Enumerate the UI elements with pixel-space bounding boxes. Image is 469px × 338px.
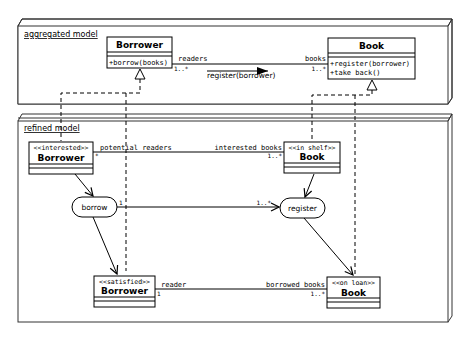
in-shelf-book-class[interactable]: <<in shelf>> Book [284,142,340,173]
operation: +register(borrower) [330,60,410,68]
multiplicity: 1..* [174,65,189,72]
role-interested-books: interested books [215,144,282,152]
multiplicity: 1..* [311,290,326,297]
refined-model-label: refined model [24,124,80,133]
operation: +take back() [330,69,381,77]
action-label: borrow [82,203,108,212]
role-books: books [305,55,326,63]
multiplicity: 1 [119,199,123,206]
interested-borrower-class[interactable]: <<interested>> Borrower [29,142,93,174]
uml-diagram: aggregated model refined model Borrower … [0,0,469,338]
role-potential-readers: potential readers [100,144,172,152]
multiplicity: 1..* [268,152,283,159]
class-name: Book [299,152,325,162]
class-name: Borrower [101,286,149,296]
multiplicity: * [95,152,99,159]
action-label: register [288,204,318,213]
role-borrowed-books: borrowed books [266,281,325,289]
operation: +borrow(books) [109,59,168,67]
class-name: Book [341,288,367,298]
message-register: register(borrower) [207,71,275,80]
on-loan-book-class[interactable]: <<on loan>> Book [327,277,380,308]
stereotype: <<on loan>> [332,279,375,287]
class-name: Borrower [38,153,86,163]
stereotype: <<in shelf>> [289,144,336,152]
multiplicity: 1 [157,290,161,297]
satisfied-borrower-class[interactable]: <<satisfied>> Borrower [94,276,155,307]
aggregated-borrower-class[interactable]: Borrower +borrow(books) [107,37,172,68]
role-reader: reader [161,281,186,289]
stereotype: <<interested>> [34,144,89,152]
borrow-action[interactable]: borrow [72,197,117,217]
class-name: Book [359,41,385,51]
stereotype: <<satisfied>> [99,278,150,286]
aggregated-model-label: aggregated model [24,30,98,39]
role-readers: readers [178,55,208,63]
register-action[interactable]: register [280,198,325,218]
aggregated-book-class[interactable]: Book +register(borrower) +take back() [328,38,415,79]
multiplicity: 1..* [257,199,272,206]
class-name: Borrower [116,40,164,50]
multiplicity: 1..* [312,65,327,72]
